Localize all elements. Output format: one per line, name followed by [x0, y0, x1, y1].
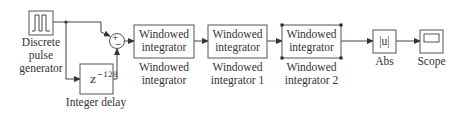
int1-label-line1: Windowed — [213, 61, 263, 73]
int2-label-line2: integrator 2 — [285, 74, 339, 87]
pulse-label-line1: Discrete — [22, 36, 60, 48]
int0-label-line1: Windowed — [139, 61, 189, 73]
selection-handle[interactable] — [281, 24, 284, 27]
sum-block[interactable]: + − — [110, 33, 125, 49]
scope-label: Scope — [417, 55, 445, 68]
scope-screen-icon — [424, 34, 439, 42]
integer-delay-block[interactable]: z −128 Integer delay — [66, 64, 127, 109]
int1-content-line2: integrator — [215, 41, 260, 54]
int1-content-line1: Windowed — [213, 28, 263, 40]
wire-pulse-to-delay[interactable] — [66, 22, 80, 79]
pulse-label-line2: pulse — [29, 49, 53, 62]
abs-content: |u| — [379, 35, 389, 48]
delay-exponent: −128 — [97, 70, 118, 79]
abs-label: Abs — [375, 55, 394, 67]
sum-minus-sign: − — [115, 40, 122, 49]
int0-content-line2: integrator — [142, 41, 187, 54]
block-diagram: Discrete pulse generator + − z −128 Inte… — [0, 0, 466, 119]
pulse-label-line3: generator — [19, 62, 63, 75]
int2-label-line1: Windowed — [287, 61, 337, 73]
abs-block[interactable]: |u| Abs — [373, 30, 396, 67]
scope-block[interactable]: Scope — [417, 30, 445, 68]
branch-point — [64, 20, 67, 23]
int0-label-line2: integrator — [142, 74, 187, 87]
selection-handle[interactable] — [281, 57, 284, 60]
int2-content-line2: integrator — [289, 41, 334, 54]
wire-pulse-to-sum[interactable] — [53, 22, 110, 36]
int2-content-line1: Windowed — [287, 28, 337, 40]
int0-content-line1: Windowed — [139, 28, 189, 40]
delay-label: Integer delay — [66, 96, 127, 109]
selection-handle[interactable] — [340, 57, 343, 60]
pulse-generator-block[interactable]: Discrete pulse generator — [19, 11, 63, 75]
delay-z: z — [90, 73, 96, 86]
windowed-integrator-1-block[interactable]: Windowed integrator Windowed integrator … — [208, 25, 267, 87]
selection-handle[interactable] — [340, 24, 343, 27]
int1-label-line2: integrator 1 — [211, 74, 265, 87]
windowed-integrator-2-block[interactable]: Windowed integrator Windowed integrator … — [281, 24, 343, 88]
windowed-integrator-block[interactable]: Windowed integrator Windowed integrator — [134, 25, 194, 87]
